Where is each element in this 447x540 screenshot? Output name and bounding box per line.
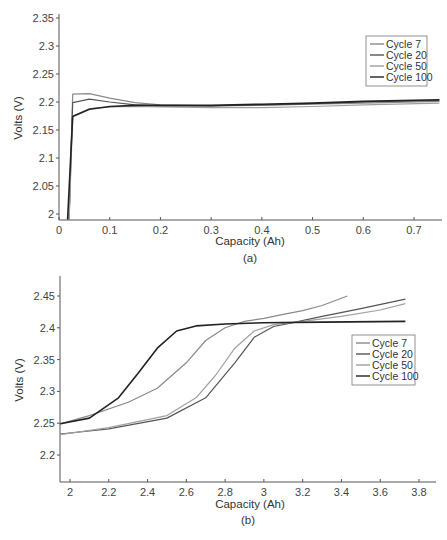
legend: Cycle 7Cycle 20Cycle 50Cycle 100 [352, 335, 419, 385]
y-axis-label: Volts (V) [12, 96, 24, 140]
x-tick-label: 3 [261, 486, 267, 498]
x-tick-label: 0 [56, 224, 62, 236]
y-tick-label: 2.1 [39, 152, 54, 164]
series-line [69, 99, 439, 219]
y-tick-label: 2.2 [39, 96, 54, 108]
x-tick-label: 2.8 [217, 486, 232, 498]
y-tick-label: 2.3 [40, 385, 55, 397]
series-line [68, 100, 440, 220]
x-tick-label: 3.2 [295, 486, 310, 498]
panel-caption: (a) [243, 252, 257, 264]
x-tick-label: 3.8 [411, 486, 426, 498]
panel-caption: (b) [241, 514, 255, 526]
series-line [69, 94, 439, 220]
y-tick-label: 2.4 [40, 322, 55, 334]
y-ticks: 22.052.12.152.22.252.32.35 [33, 12, 59, 220]
y-tick-label: 2.25 [34, 417, 55, 429]
y-ticks: 2.22.252.32.352.42.45 [34, 290, 60, 461]
x-tick-label: 2.6 [179, 486, 194, 498]
y-tick-label: 2.05 [33, 180, 54, 192]
y-tick-label: 2.3 [39, 40, 54, 52]
x-axis-label: Capacity (Ah) [215, 235, 285, 247]
y-tick-label: 2.45 [34, 290, 55, 302]
x-tick-label: 2 [67, 486, 73, 498]
x-tick-label: 2.4 [140, 486, 155, 498]
x-tick-label: 2.2 [101, 486, 116, 498]
legend: Cycle 7Cycle 20Cycle 50Cycle 100 [366, 36, 433, 86]
x-tick-label: 0.5 [305, 224, 320, 236]
y-tick-label: 2.25 [33, 68, 54, 80]
x-tick-label: 0.6 [356, 224, 371, 236]
x-tick-label: 3.6 [373, 486, 388, 498]
x-tick-label: 0.2 [153, 224, 168, 236]
y-tick-label: 2.15 [33, 124, 54, 136]
x-tick-label: 0.1 [102, 224, 117, 236]
chart-panel-b: 2.22.252.32.352.42.45 22.22.42.62.833.23… [13, 276, 436, 526]
legend-label: Cycle 100 [386, 71, 433, 83]
y-tick-label: 2.35 [34, 354, 55, 366]
x-tick-label: 3.4 [334, 486, 349, 498]
data-lines [68, 94, 440, 220]
y-tick-label: 2.2 [40, 449, 55, 461]
legend-label: Cycle 100 [372, 370, 419, 382]
series-line [60, 296, 347, 424]
series-line [69, 103, 439, 220]
y-axis-label: Volts (V) [13, 358, 25, 402]
x-tick-label: 0.7 [406, 224, 421, 236]
y-tick-label: 2 [48, 208, 54, 220]
y-tick-label: 2.35 [33, 12, 54, 24]
chart-panel-a: 22.052.12.152.22.252.32.35 00.10.20.30.4… [12, 12, 442, 264]
x-axis-label: Capacity (Ah) [215, 498, 285, 510]
figure: 22.052.12.152.22.252.32.35 00.10.20.30.4… [0, 0, 447, 540]
